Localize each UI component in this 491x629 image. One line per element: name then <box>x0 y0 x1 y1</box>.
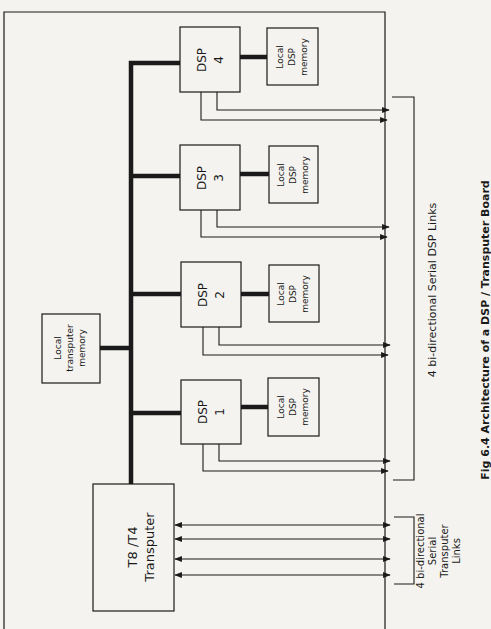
svg-text:memory: memory <box>77 329 87 367</box>
svg-text:memory: memory <box>300 388 310 426</box>
architecture-diagram: DSP 4 Local DSP memory DSP 3 Local DSP m… <box>0 0 491 629</box>
dsp-4-number: 4 <box>212 56 226 64</box>
svg-text:Transputer: Transputer <box>439 523 450 578</box>
svg-text:DSP: DSP <box>287 47 297 66</box>
dsp-4-block: DSP 4 Local DSP memory <box>180 27 318 92</box>
transputer-links-bracket <box>394 517 414 584</box>
local-transputer-memory-block: Local transputer memory <box>42 314 100 383</box>
svg-text:Local: Local <box>276 395 286 418</box>
dsp-1-block: DSP 1 Local DSP memory <box>181 378 319 444</box>
figure-caption: Fig 6.4 Architecture of a DSP / Transput… <box>479 180 491 480</box>
svg-text:Local: Local <box>276 163 286 186</box>
svg-text:memory: memory <box>300 156 310 194</box>
dsp-4-memory: memory <box>299 38 309 76</box>
svg-text:DSP: DSP <box>195 166 209 190</box>
svg-text:Local: Local <box>275 45 285 68</box>
svg-text:DSP: DSP <box>288 397 298 416</box>
dsp-3-block: DSP 3 Local DSP memory <box>180 145 318 210</box>
dsp-links-bracket <box>392 97 414 480</box>
svg-text:3: 3 <box>212 174 226 182</box>
transputer-label: Transputer <box>142 512 157 583</box>
svg-text:transputer: transputer <box>65 324 75 372</box>
svg-text:DSP: DSP <box>196 400 210 424</box>
svg-text:4 bi-directional: 4 bi-directional <box>415 513 426 588</box>
svg-text:Serial: Serial <box>427 537 438 565</box>
svg-text:Links: Links <box>451 538 462 564</box>
transputer-model: T8 /T4 <box>125 527 140 569</box>
svg-text:DSP: DSP <box>288 165 298 184</box>
svg-text:DSP: DSP <box>288 284 298 303</box>
dsp-4-label: DSP <box>195 48 209 72</box>
svg-text:memory: memory <box>300 275 310 313</box>
transputer-serial-links <box>175 525 390 575</box>
dsp-links-label: 4 bi-directional Serial DSP Links <box>426 203 439 378</box>
svg-text:2: 2 <box>213 291 227 299</box>
svg-text:Local: Local <box>276 282 286 305</box>
svg-text:Local: Local <box>53 336 63 359</box>
svg-text:DSP: DSP <box>196 283 210 307</box>
transputer-block: T8 /T4 Transputer <box>93 484 174 611</box>
svg-text:1: 1 <box>213 408 227 416</box>
